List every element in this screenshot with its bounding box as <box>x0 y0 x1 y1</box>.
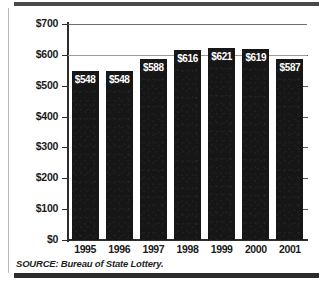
bar-2001 <box>276 59 303 240</box>
bar-1995 <box>72 71 99 240</box>
top-divider-rule <box>14 2 319 6</box>
gridline-700 <box>68 24 307 25</box>
y-axis-label-100: $100 <box>6 202 58 214</box>
bar-1998 <box>174 50 201 240</box>
y-axis-label-600: $600 <box>6 48 58 60</box>
plot-area: $548$548$588$616$621$619$587 <box>68 24 307 240</box>
y-axis-label-200: $200 <box>6 171 58 183</box>
lottery-revenue-figure: Millions $0$100$200$300$400$500$600$700 … <box>0 0 321 281</box>
bar-2000 <box>242 49 269 240</box>
bar-1997 <box>140 59 167 240</box>
source-note: SOURCE: Bureau of State Lottery. <box>16 258 163 269</box>
y-axis-tickmark-100 <box>62 209 67 210</box>
y-axis-tickmark-500 <box>62 86 67 87</box>
y-axis-tickmark-700 <box>62 24 67 25</box>
bar-1996 <box>106 71 133 240</box>
bar-value-label-2000: $619 <box>240 52 271 63</box>
y-axis-label-0: $0 <box>6 233 58 245</box>
bar-value-label-1999: $621 <box>206 51 237 62</box>
bar-value-label-1996: $548 <box>104 74 135 85</box>
y-axis-tickmark-300 <box>62 147 67 148</box>
bar-value-label-1998: $616 <box>172 53 203 64</box>
y-axis-tickmark-600 <box>62 55 67 56</box>
bar-1999 <box>208 48 235 240</box>
y-axis-tickmark-400 <box>62 117 67 118</box>
y-axis-tickmark-200 <box>62 178 67 179</box>
bar-value-label-1995: $548 <box>70 74 101 85</box>
x-axis-label-2001: 2001 <box>270 243 310 255</box>
bar-value-label-2001: $587 <box>274 62 305 73</box>
y-axis-tickmark-0 <box>62 240 67 241</box>
y-axis-label-500: $500 <box>6 79 58 91</box>
y-axis-label-400: $400 <box>6 110 58 122</box>
y-axis-label-300: $300 <box>6 140 58 152</box>
bar-value-label-1997: $588 <box>138 62 169 73</box>
y-axis-label-700: $700 <box>6 17 58 29</box>
bottom-divider-rule <box>14 273 319 278</box>
